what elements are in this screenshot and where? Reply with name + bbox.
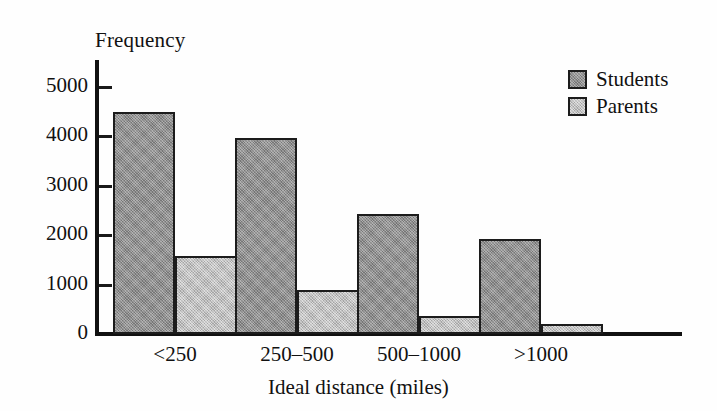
bar-parents-2 <box>419 316 481 334</box>
y-tick-label-1000: 1000 <box>28 273 88 294</box>
chart-legend: Students Parents <box>568 66 668 120</box>
bar-parents-0 <box>175 256 237 334</box>
bar-chart-figure: Frequency 010002000300040005000 <250250–… <box>0 0 717 411</box>
bar-students-1 <box>235 138 297 334</box>
bar-students-2 <box>357 214 419 334</box>
y-tick-label-2000: 2000 <box>28 223 88 244</box>
bar-students-3 <box>479 239 541 334</box>
bar-parents-1 <box>297 290 359 334</box>
parents-swatch-icon <box>568 97 587 116</box>
y-axis-title: Frequency <box>95 28 185 53</box>
legend-item-students: Students <box>568 66 668 93</box>
x-axis-title: Ideal distance (miles) <box>0 375 717 400</box>
y-tick-label-3000: 3000 <box>28 174 88 195</box>
students-swatch-icon <box>568 70 587 89</box>
y-tick-label-0: 0 <box>28 322 88 343</box>
category-label-3: >1000 <box>461 342 621 367</box>
legend-label-parents: Parents <box>596 94 658 119</box>
y-tick-label-5000: 5000 <box>28 75 88 96</box>
bar-students-0 <box>113 112 175 334</box>
y-axis-tick-labels: 010002000300040005000 <box>28 0 88 411</box>
legend-item-parents: Parents <box>568 93 668 120</box>
bar-parents-3 <box>541 324 603 334</box>
legend-label-students: Students <box>596 67 668 92</box>
y-tick-label-4000: 4000 <box>28 124 88 145</box>
